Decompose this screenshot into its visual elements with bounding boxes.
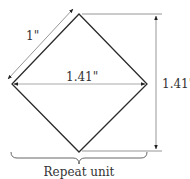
side-label: 1" [26,29,39,43]
width-label: 1.41" [66,70,98,84]
side-dimension-line [8,9,73,79]
repeat-unit-caption: Repeat unit [44,165,115,179]
repeat-unit-diagram: 1" 1.41" 1.41" Repeat unit [0,0,190,179]
repeat-unit-brace [11,152,147,164]
height-label: 1.41" [162,77,190,91]
